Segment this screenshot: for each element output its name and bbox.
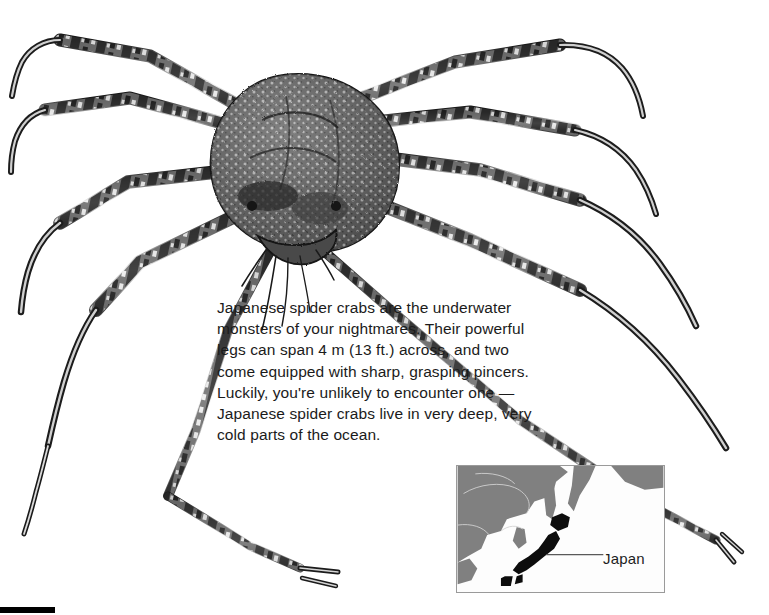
map-japan-label: Japan	[603, 550, 645, 567]
crab-carapace	[211, 74, 399, 264]
page-root: Japanese spider crabs are the underwater…	[0, 0, 769, 615]
caption-text-block: Japanese spider crabs are the underwater…	[217, 297, 533, 445]
crab-legs-left	[11, 40, 258, 534]
caption-paragraph: Japanese spider crabs are the underwater…	[217, 297, 533, 445]
bottom-left-black-bar	[0, 607, 55, 613]
inset-locator-map	[456, 465, 665, 593]
